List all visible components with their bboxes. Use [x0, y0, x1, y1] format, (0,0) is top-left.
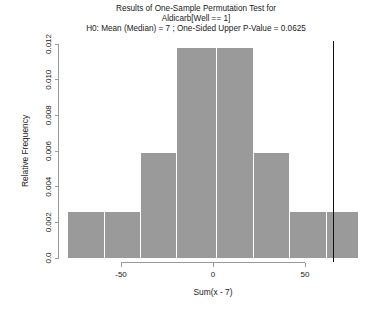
chart-hypothesis-line: H0: Mean (Median) = 7 ; One-Sided Upper … [86, 24, 306, 33]
table-row [253, 153, 289, 258]
permutation-test-histogram: Results of One-Sample Permutation Test f… [0, 0, 383, 322]
y-tick-label: 0.004 [44, 176, 53, 197]
table-row [140, 153, 176, 258]
table-row [177, 48, 217, 258]
y-tick-label: 0.010 [44, 69, 53, 90]
table-row [68, 212, 104, 258]
table-row [326, 212, 359, 258]
table-row [290, 212, 326, 258]
table-row [104, 212, 140, 258]
y-tick-label: 0.002 [44, 212, 53, 233]
x-tick-label: 0 [211, 270, 216, 279]
x-tick-label: -50 [115, 270, 127, 279]
x-tick-label: 50 [301, 270, 310, 279]
x-axis-label: Sum(x - 7) [193, 287, 232, 297]
y-tick-label: 0.008 [44, 105, 53, 126]
y-axis-label: Relative Frequency [20, 114, 30, 187]
y-tick-label: 0.006 [44, 140, 53, 161]
table-row [217, 48, 253, 258]
chart-title: Results of One-Sample Permutation Test f… [116, 4, 276, 13]
chart-subtitle: Aldicarb[Well == 1] [162, 14, 231, 23]
y-tick-label: 0.0 [44, 252, 53, 264]
y-tick-label: 0.012 [44, 33, 53, 54]
